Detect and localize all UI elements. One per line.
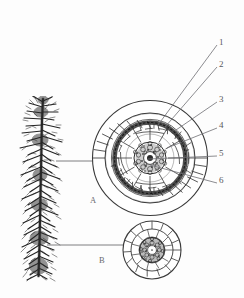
callout-label-1: 1 (219, 38, 224, 47)
figure-canvas (0, 0, 244, 298)
callout-label-2: 2 (219, 60, 224, 69)
cross-section-b (123, 221, 181, 279)
callout-label-4: 4 (219, 121, 224, 130)
panel-label-b: B (99, 256, 105, 265)
panel-label-a: A (90, 196, 96, 205)
cross-section-a (93, 101, 208, 216)
root-specimen-illustration (20, 95, 63, 281)
callout-label-3: 3 (219, 95, 224, 104)
callout-label-6: 6 (219, 176, 224, 185)
root-anatomy-figure: 1 2 3 4 5 6 A B (0, 0, 244, 298)
callout-label-5: 5 (219, 149, 224, 158)
leader-line-1 (158, 45, 217, 125)
